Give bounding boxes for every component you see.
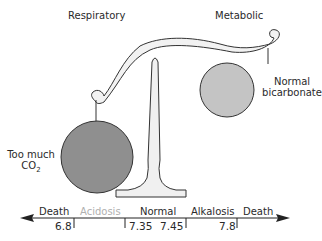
normal-bicarbonate-label: Normal bicarbonate: [262, 76, 322, 98]
zone-death-left: Death: [39, 206, 69, 217]
left-weight-co2: [61, 121, 133, 193]
metabolic-label: Metabolic: [215, 10, 263, 21]
right-arrow-icon: [276, 214, 290, 222]
zone-normal: Normal: [140, 206, 176, 217]
right-weight-bicarbonate: [200, 63, 254, 117]
respiratory-label: Respiratory: [68, 10, 125, 21]
too-much-co2-label: Too much CO2: [6, 149, 56, 176]
left-arrow-icon: [20, 214, 34, 222]
tick-label-7-45: 7.45: [160, 221, 183, 232]
balance-scale-diagram: [0, 0, 322, 241]
tick-label-7-35: 7.35: [129, 221, 152, 232]
zone-alkalosis: Alkalosis: [191, 206, 234, 217]
zone-acidosis: Acidosis: [80, 206, 121, 217]
zone-death-right: Death: [243, 206, 273, 217]
tick-label-6-8: 6.8: [55, 221, 72, 232]
tick-label-7-8: 7.8: [219, 221, 236, 232]
